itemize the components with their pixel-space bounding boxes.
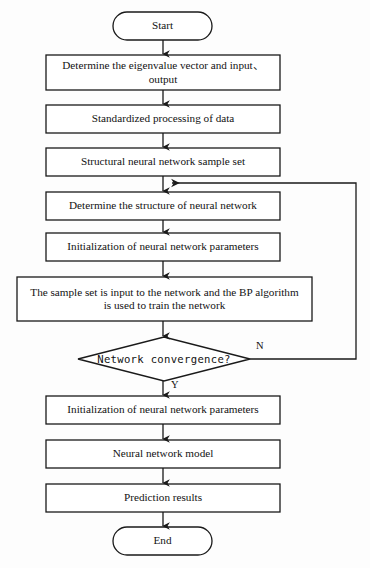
flowchart-canvas: Start Determine the eigenvalue vector an… (0, 0, 370, 568)
node-shape-step3[interactable] (46, 148, 280, 176)
node-shape-step2[interactable] (46, 105, 280, 133)
node-shape-start[interactable] (113, 12, 212, 40)
edge-label-yes: Y (171, 379, 179, 390)
flowchart-svg (0, 0, 370, 568)
node-shape-step6[interactable] (17, 277, 312, 321)
edge-label-no: N (256, 340, 264, 351)
node-shape-step9[interactable] (46, 484, 280, 512)
node-shape-step8[interactable] (46, 440, 280, 468)
node-shape-step5[interactable] (46, 233, 280, 261)
node-shape-end[interactable] (113, 527, 212, 555)
node-shape-step1[interactable] (46, 55, 280, 90)
node-shape-step4[interactable] (46, 192, 280, 220)
node-shape-step7[interactable] (46, 396, 280, 424)
node-shape-decision[interactable] (78, 337, 250, 381)
